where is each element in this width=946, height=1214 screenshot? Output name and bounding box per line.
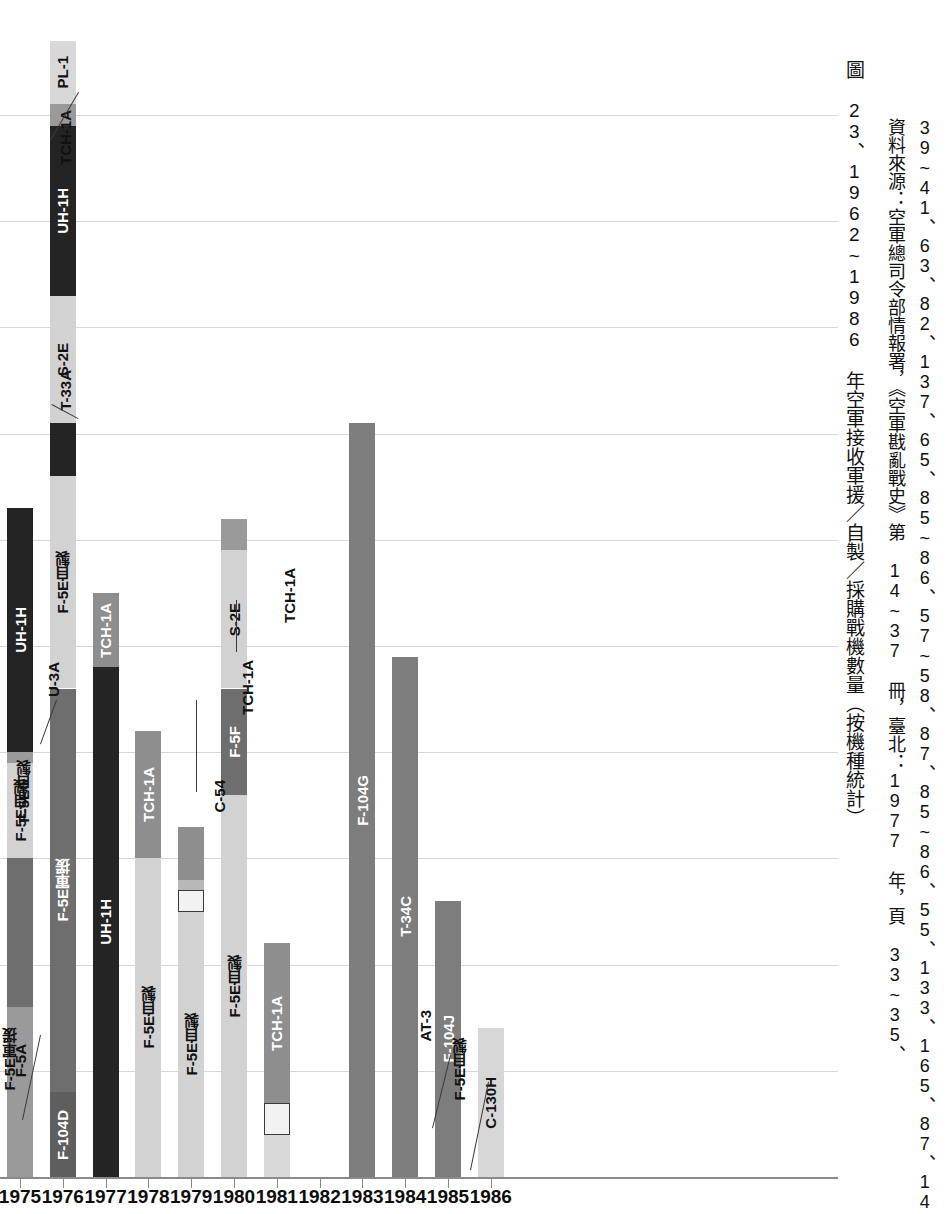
callout-label-1979-C-54: C-54 bbox=[212, 780, 227, 813]
gridline bbox=[0, 434, 838, 435]
bar-segment-1976-F-5E自製[interactable]: F-5E自製 bbox=[50, 476, 76, 688]
bar-segment-1984-T-34C[interactable]: T-34C bbox=[392, 657, 418, 1177]
bar-1976[interactable]: F-104DF-5E軍援F-5E自製S-2EUH-1HPL-1 bbox=[50, 126, 76, 1177]
bar-segment-1978-TCH-1A[interactable]: TCH-1A bbox=[135, 731, 161, 858]
segment-label: F-104D bbox=[55, 1110, 70, 1160]
callout-label-1975-F-5E軍援: F-5E軍援 bbox=[2, 1028, 17, 1091]
segment-label: PL-1 bbox=[55, 56, 70, 89]
bar-segment-1981-AT-3[interactable] bbox=[264, 1103, 290, 1135]
segment-label: UH-1H bbox=[55, 188, 70, 234]
segment-label: TCH-1A bbox=[141, 767, 156, 822]
x-axis-label-1986: 1986 bbox=[461, 1186, 521, 1208]
bar-segment-1980-TCH-1A[interactable] bbox=[221, 519, 247, 551]
segment-label: F-5E自製 bbox=[184, 1013, 199, 1076]
segment-label: TCH-1A bbox=[98, 603, 113, 658]
segment-label: F-5E自製 bbox=[227, 955, 242, 1018]
gridline bbox=[0, 221, 838, 222]
bar-segment-1981-F-5E自製[interactable] bbox=[264, 1135, 290, 1177]
callout-leader-line bbox=[196, 700, 197, 792]
bar-1984[interactable]: T-34C bbox=[392, 657, 418, 1177]
bar-1986[interactable]: C-130H bbox=[478, 1028, 504, 1177]
segment-label: T-34C bbox=[398, 896, 413, 937]
bar-segment-1979-C-54[interactable] bbox=[178, 880, 204, 891]
bar-segment-1976-F-104D[interactable]: F-104D bbox=[50, 1092, 76, 1177]
segment-label: UH-1H bbox=[98, 899, 113, 945]
figure-source-line-2: 39~41、63、82、137、65、85~86、57~58、87、85~86、… bbox=[914, 118, 935, 1068]
segment-label: UH-1H bbox=[13, 607, 28, 653]
bar-segment-1980-F-5E自製[interactable]: F-5E自製 bbox=[221, 795, 247, 1177]
gridline bbox=[0, 752, 838, 753]
bar-segment-1976-PL-1[interactable]: PL-1 bbox=[50, 41, 76, 105]
callout-label-1981-F-5E自製: F-5E自製 bbox=[452, 1038, 467, 1101]
bar-segment-1975-F-5E軍援[interactable] bbox=[7, 1113, 33, 1177]
bar-segment-1977-TCH-1A[interactable]: TCH-1A bbox=[93, 593, 119, 667]
bar-segment-1986-C-130H[interactable]: C-130H bbox=[478, 1028, 504, 1177]
segment-label: F-5E軍援 bbox=[55, 859, 70, 922]
bar-segment-1979-TCH-1A[interactable] bbox=[178, 827, 204, 880]
bar-1977[interactable]: UH-1HTCH-1A bbox=[93, 593, 119, 1177]
gridline bbox=[0, 1071, 838, 1072]
gridline bbox=[0, 327, 838, 328]
x-axis-line bbox=[0, 1177, 838, 1179]
bar-1980[interactable]: F-5E自製F-5FS-2E bbox=[221, 519, 247, 1177]
gridline bbox=[0, 965, 838, 966]
gridline bbox=[0, 115, 838, 116]
bar-segment-1977-UH-1H[interactable]: UH-1H bbox=[93, 667, 119, 1177]
callout-label-1975-F-5E自製: F-5E自製 bbox=[16, 760, 31, 823]
segment-label: F-5F bbox=[227, 726, 242, 758]
bar-segment-1978-F-5E自製[interactable]: F-5E自製 bbox=[135, 858, 161, 1177]
callout-label-1981-AT-3: AT-3 bbox=[418, 1010, 433, 1041]
bar-segment-1975-F-5E自製[interactable] bbox=[7, 858, 33, 1007]
segment-label: TCH-1A bbox=[269, 996, 284, 1051]
bar-segment-1976-T-33A[interactable] bbox=[50, 423, 76, 476]
bar-segment-1979-S-2E[interactable] bbox=[178, 890, 204, 911]
callout-label-1976-TCH-1A: TCH-1A bbox=[58, 110, 73, 165]
segment-label: F-5E自製 bbox=[141, 986, 156, 1049]
segment-label: C-130H bbox=[483, 1077, 498, 1129]
gridline bbox=[0, 540, 838, 541]
bar-1983[interactable]: F-104G bbox=[349, 423, 375, 1177]
callout-label-1976-T-33A: T-33A bbox=[58, 370, 73, 411]
callout-label-1980-TCH-1A: TCH-1A bbox=[282, 568, 297, 623]
bar-segment-1976-F-5E軍援[interactable]: F-5E軍援 bbox=[50, 689, 76, 1093]
gridline bbox=[0, 858, 838, 859]
gridline bbox=[0, 646, 838, 647]
segment-label: S-2E bbox=[227, 603, 242, 636]
bar-segment-1979-F-5E自製[interactable]: F-5E自製 bbox=[178, 912, 204, 1178]
figure-title: 圖 23、1962~1986 年空軍接收軍援／自製／採購戰機數量（按機種統計） bbox=[843, 60, 865, 1060]
figure-source-line-1: 資料來源：空軍總司令部情報署，《空軍戡亂戰史》第 14~37 冊，臺北：1977… bbox=[884, 118, 905, 1068]
callout-label-1975-U-3A: U-3A bbox=[46, 662, 61, 697]
segment-label: F-5E自製 bbox=[55, 551, 70, 614]
bar-segment-1983-F-104G[interactable]: F-104G bbox=[349, 423, 375, 1177]
bar-1978[interactable]: F-5E自製TCH-1A bbox=[135, 731, 161, 1177]
callout-leader-line bbox=[236, 600, 237, 652]
bar-segment-1981-TCH-1A[interactable]: TCH-1A bbox=[264, 943, 290, 1102]
segment-label: F-104G bbox=[355, 775, 370, 826]
callout-label-1979-TCH-1A: TCH-1A bbox=[240, 660, 255, 715]
bar-segment-1975-UH-1H[interactable]: UH-1H bbox=[7, 508, 33, 752]
bar-1981[interactable]: TCH-1A bbox=[264, 943, 290, 1177]
bar-1979[interactable]: F-5E自製 bbox=[178, 827, 204, 1177]
